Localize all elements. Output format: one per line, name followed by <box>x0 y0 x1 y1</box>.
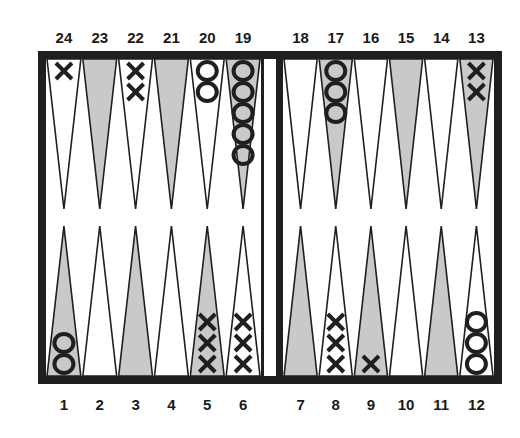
board-graphic <box>0 0 520 438</box>
left-half <box>46 59 261 376</box>
backgammon-board: 242322212019181716151413 123456789101112 <box>0 0 520 438</box>
right-half <box>283 59 494 376</box>
bar-interior <box>264 59 276 376</box>
